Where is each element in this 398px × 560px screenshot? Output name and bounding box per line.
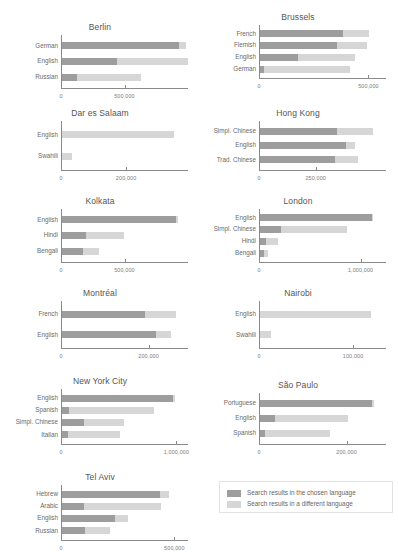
bar-segment-different-language bbox=[117, 58, 188, 65]
stacked-bar bbox=[62, 248, 99, 255]
stacked-bar bbox=[260, 156, 358, 163]
stacked-bar bbox=[260, 415, 348, 422]
plot-area: GermanEnglishRussian0500,000 bbox=[4, 35, 196, 104]
bar-segment-different-language bbox=[62, 153, 72, 160]
bar-segment-different-language bbox=[260, 331, 271, 338]
bar-segment-chosen-language bbox=[62, 515, 115, 522]
panel-title: Brussels bbox=[202, 12, 394, 24]
category-label: German bbox=[233, 66, 256, 72]
category-label: Trad. Chinese bbox=[217, 157, 256, 163]
plot-area: EnglishSwahili0200,000 bbox=[4, 121, 196, 186]
stacked-bar bbox=[260, 430, 330, 437]
x-axis-tick-label: 500,000 bbox=[164, 545, 185, 551]
bar-segment-different-language bbox=[160, 491, 169, 498]
x-axis-tick-label: 0 bbox=[257, 267, 260, 273]
stacked-bar bbox=[62, 58, 188, 65]
category-label: Hindi bbox=[44, 232, 58, 238]
x-axis-spine bbox=[61, 170, 188, 171]
category-label: Russian bbox=[35, 74, 58, 80]
category-label: English bbox=[37, 332, 58, 338]
bar-segment-different-language bbox=[115, 515, 127, 522]
panel-title: Berlin bbox=[4, 22, 196, 34]
plot-area: EnglishSwahili0100,000 bbox=[202, 301, 394, 364]
x-axis-tick-label: 0 bbox=[59, 175, 62, 181]
x-axis-tick bbox=[126, 167, 127, 170]
stacked-bar bbox=[62, 503, 161, 510]
y-axis-spine bbox=[61, 301, 62, 348]
legend-label: Search results in the chosen language bbox=[247, 488, 356, 497]
x-axis-tick bbox=[347, 441, 348, 444]
category-label: English bbox=[37, 58, 58, 64]
stacked-bar bbox=[260, 226, 347, 233]
plot-area: PortugueseEnglishSpanish0200,000 bbox=[202, 393, 394, 460]
stacked-bar bbox=[62, 395, 175, 402]
bar-segment-chosen-language bbox=[62, 491, 160, 498]
x-axis-tick-label: 500,000 bbox=[114, 93, 135, 99]
category-label: Flemish bbox=[234, 42, 256, 48]
bar-segment-different-language bbox=[337, 42, 368, 49]
category-label: English bbox=[37, 395, 58, 401]
panel-title: Dar es Salaam bbox=[4, 108, 196, 120]
chart-panel: São PauloPortugueseEnglishSpanish0200,00… bbox=[202, 380, 394, 460]
panel-title: Tel Aviv bbox=[4, 472, 196, 484]
y-axis-spine bbox=[61, 121, 62, 170]
x-axis-tick-label: 0 bbox=[59, 449, 62, 455]
corner-mark-icon bbox=[6, 2, 16, 11]
bar-segment-chosen-language bbox=[62, 311, 145, 318]
category-label: English bbox=[37, 132, 58, 138]
bar-segment-different-language bbox=[176, 216, 177, 223]
category-label: Swahili bbox=[236, 332, 256, 338]
bar-segment-different-language bbox=[68, 431, 120, 438]
x-axis-tick bbox=[259, 441, 260, 444]
stacked-bar bbox=[62, 131, 174, 138]
x-axis-tick-label: 0 bbox=[257, 83, 260, 89]
x-axis-tick bbox=[361, 259, 362, 262]
bar-segment-different-language bbox=[281, 226, 347, 233]
category-label: German bbox=[35, 43, 58, 49]
stacked-bar bbox=[62, 232, 124, 239]
bar-segment-different-language bbox=[145, 311, 176, 318]
category-label: English bbox=[235, 415, 256, 421]
chart-panel: New York CityEnglishSpanishSimpl. Chines… bbox=[4, 376, 196, 460]
chart-panel: KolkataEnglishHindiBengali0500,000 bbox=[4, 196, 196, 278]
bar-segment-different-language bbox=[86, 232, 124, 239]
bar-segment-chosen-language bbox=[260, 415, 275, 422]
stacked-bar bbox=[62, 153, 72, 160]
category-label: Swahili bbox=[38, 153, 58, 159]
x-axis-tick bbox=[61, 167, 62, 170]
chart-panel: Hong KongSimpl. ChineseEnglishTrad. Chin… bbox=[202, 108, 394, 186]
plot-area: EnglishSpanishSimpl. ChineseItalian01,00… bbox=[4, 389, 196, 460]
chart-panel: LondonEnglishSimpl. ChineseHindiBengali0… bbox=[202, 196, 394, 278]
stacked-bar bbox=[260, 238, 278, 245]
bar-segment-chosen-language bbox=[62, 216, 176, 223]
category-label: English bbox=[37, 515, 58, 521]
chart-panel: Dar es SalaamEnglishSwahili0200,000 bbox=[4, 108, 196, 186]
stacked-bar bbox=[260, 42, 367, 49]
x-axis-tick bbox=[176, 441, 177, 444]
chart-legend: Search results in the chosen languageSea… bbox=[219, 481, 393, 513]
bar-segment-different-language bbox=[83, 248, 100, 255]
x-axis-tick bbox=[368, 75, 369, 78]
stacked-bar bbox=[260, 250, 268, 257]
bar-segment-chosen-language bbox=[62, 527, 85, 534]
x-axis-tick bbox=[61, 345, 62, 348]
bar-segment-chosen-language bbox=[62, 248, 83, 255]
category-label: Arabic bbox=[40, 503, 58, 509]
bar-segment-different-language bbox=[372, 400, 374, 407]
x-axis-spine bbox=[61, 262, 188, 263]
category-label: Italian bbox=[41, 432, 58, 438]
bar-segment-chosen-language bbox=[62, 419, 84, 426]
chart-panel: Tel AvivHebrewArabicEnglishRussian0500,0… bbox=[4, 472, 196, 556]
bar-segment-chosen-language bbox=[62, 58, 117, 65]
x-axis-spine bbox=[259, 170, 386, 171]
category-label: English bbox=[235, 54, 256, 60]
panel-title: São Paulo bbox=[202, 380, 394, 392]
bar-segment-chosen-language bbox=[62, 395, 173, 402]
x-axis-tick-label: 100,000 bbox=[343, 353, 364, 359]
stacked-bar bbox=[62, 527, 110, 534]
plot-area: EnglishHindiBengali0500,000 bbox=[4, 209, 196, 278]
x-axis-tick bbox=[259, 345, 260, 348]
panel-title: Hong Kong bbox=[202, 108, 394, 120]
category-label: Spanish bbox=[233, 430, 256, 436]
category-label: Hindi bbox=[242, 238, 256, 244]
